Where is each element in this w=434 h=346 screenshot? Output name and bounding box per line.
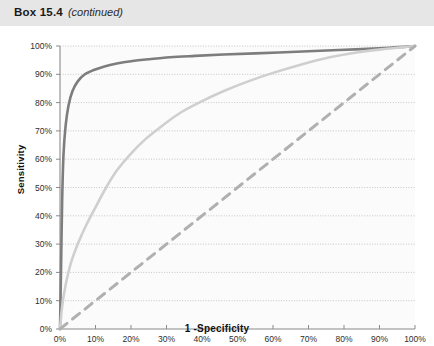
x-axis-tick-label: 10% — [76, 334, 116, 344]
x-axis-tick-label: 80% — [324, 334, 364, 344]
x-axis-title: 1 -Specificity — [0, 323, 434, 334]
x-axis-tick-label: 20% — [111, 334, 151, 344]
x-axis-tick-label: 40% — [182, 334, 222, 344]
box-header-band: Box 15.4(continued) — [0, 0, 434, 26]
x-axis-tick-label: 50% — [218, 334, 258, 344]
x-axis-tick-label: 60% — [253, 334, 293, 344]
y-axis-tick-label: 10% — [18, 296, 52, 306]
y-axis-tick-label: 30% — [18, 239, 52, 249]
y-axis-tick-label: 20% — [18, 267, 52, 277]
y-axis-tick-label: 90% — [18, 69, 52, 79]
figure-root: Box 15.4(continued) 0%10%20%30%40%50%60%… — [0, 0, 434, 346]
y-axis-tick-label: 80% — [18, 98, 52, 108]
x-axis-tick-label: 100% — [395, 334, 434, 344]
box-title: Box 15.4 — [14, 6, 63, 18]
x-axis-tick-label: 90% — [360, 334, 400, 344]
box-subtitle: (continued) — [68, 6, 123, 18]
box-header-text: Box 15.4(continued) — [14, 6, 123, 18]
x-axis-tick-label: 0% — [40, 334, 80, 344]
x-axis-tick-label: 30% — [147, 334, 187, 344]
y-axis-title: Sensitivity — [15, 110, 26, 230]
x-axis-tick-label: 70% — [289, 334, 329, 344]
plot-svg — [0, 26, 434, 326]
roc-chart: 0%10%20%30%40%50%60%70%80%90%100% 0%10%2… — [0, 26, 434, 326]
y-axis-tick-label: 100% — [18, 41, 52, 51]
